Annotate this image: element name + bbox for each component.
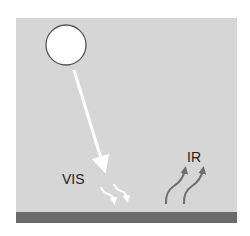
infrared-emission-arrows-icon: [166, 170, 203, 204]
visible-absorbed-arrows-icon: [101, 184, 127, 201]
visible-light-arrow-icon: [74, 70, 103, 165]
sun-icon: [46, 25, 86, 65]
vis-label: VIS: [62, 171, 85, 187]
diagram-graphics: [0, 0, 250, 236]
ir-label: IR: [187, 149, 201, 165]
